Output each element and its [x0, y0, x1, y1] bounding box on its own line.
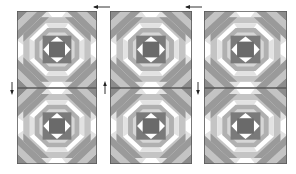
quilt-block-r1c2 — [110, 11, 192, 88]
quilt-block-r2c3 — [204, 88, 287, 164]
quilt-block-r2c1 — [17, 88, 97, 164]
quilt-layout-graphic — [0, 0, 296, 174]
arrow-down-icon — [10, 82, 14, 95]
arrow-left-icon — [185, 5, 202, 9]
blocks-layer — [17, 11, 287, 164]
quilt-block-r1c1 — [17, 11, 97, 88]
arrow-down-icon — [196, 82, 200, 95]
quilt-block-r2c2 — [110, 88, 192, 164]
arrow-up-icon — [103, 81, 107, 94]
quilt-diagram — [0, 0, 296, 174]
arrow-left-icon — [93, 5, 110, 9]
quilt-block-r1c3 — [204, 11, 287, 88]
